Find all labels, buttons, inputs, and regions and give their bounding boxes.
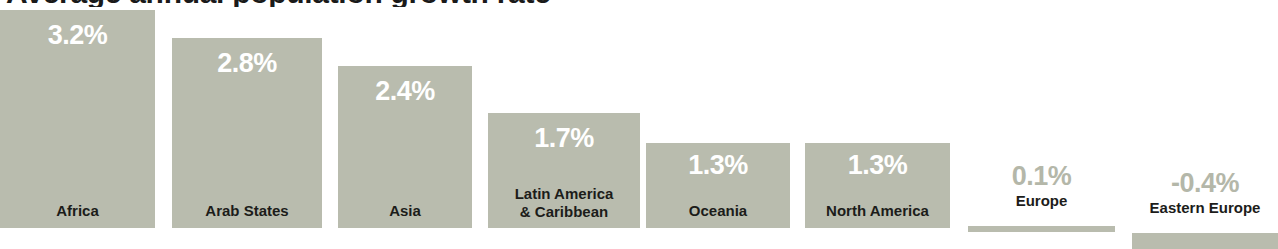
bar-group[interactable]: 1.7%Latin America& Caribbean — [488, 0, 640, 249]
bar-value-label: 2.8% — [172, 50, 322, 77]
bar-group[interactable]: -0.4%Eastern Europe — [1132, 0, 1278, 249]
bar-value-label: -0.4% — [1132, 170, 1278, 197]
bar-category-label-line: Oceania — [646, 202, 790, 220]
bar-category-label-line: Africa — [0, 202, 155, 220]
chart-title-text: Average annual population growth rate — [6, 0, 551, 7]
bar-category-label: Eastern Europe — [1132, 199, 1278, 217]
bar-category-label: Europe — [968, 192, 1115, 210]
bar-value-label: 1.3% — [646, 152, 790, 179]
bar-category-label: Oceania — [646, 202, 790, 220]
bar-rect[interactable] — [968, 226, 1115, 232]
bar-group[interactable]: 2.4%Asia — [338, 0, 472, 249]
bar-category-label-line: North America — [805, 202, 950, 220]
bar-value-label: 2.4% — [338, 78, 472, 105]
bar-value-label: 0.1% — [968, 163, 1115, 190]
bar-category-label-line: & Caribbean — [488, 203, 640, 221]
bar-group[interactable]: 1.3%Oceania — [646, 0, 790, 249]
bar-group[interactable]: 1.3%North America — [805, 0, 950, 249]
bar-category-label: Latin America& Caribbean — [488, 185, 640, 222]
bar-category-label: Asia — [338, 202, 472, 220]
bar-chart-plot-area: 3.2%Africa2.8%Arab States2.4%Asia1.7%Lat… — [0, 0, 1278, 249]
chart-title-cropped: Average annual population growth rate — [0, 0, 1278, 7]
bar-group[interactable]: 3.2%Africa — [0, 0, 155, 249]
bar-category-label: Arab States — [172, 202, 322, 220]
bar-group[interactable]: 0.1%Europe — [968, 0, 1115, 249]
bar-category-label-line: Europe — [968, 192, 1115, 210]
bar-value-label: 3.2% — [0, 22, 155, 49]
bar-category-label-line: Latin America — [488, 185, 640, 203]
bar-category-label-line: Arab States — [172, 202, 322, 220]
bar-value-label: 1.7% — [488, 125, 640, 152]
bar-value-label: 1.3% — [805, 152, 950, 179]
bar-rect[interactable] — [1132, 233, 1278, 249]
bar-category-label: Africa — [0, 202, 155, 220]
bar-group[interactable]: 2.8%Arab States — [172, 0, 322, 249]
bar-category-label: North America — [805, 202, 950, 220]
bar-category-label-line: Asia — [338, 202, 472, 220]
bar-category-label-line: Eastern Europe — [1132, 199, 1278, 217]
